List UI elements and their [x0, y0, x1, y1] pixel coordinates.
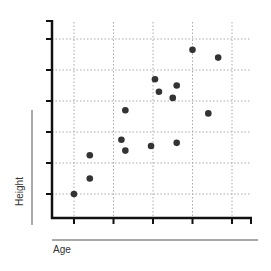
- scatter-chart: [0, 0, 271, 271]
- y-axis-label: Height: [14, 177, 25, 206]
- data-point: [152, 76, 159, 83]
- data-point: [71, 191, 78, 198]
- data-point: [156, 88, 163, 95]
- data-point: [173, 82, 180, 89]
- data-point: [215, 54, 222, 61]
- data-point: [122, 107, 129, 114]
- data-point: [173, 140, 180, 147]
- data-point: [148, 143, 155, 150]
- x-axis-label: Age: [53, 244, 71, 255]
- data-point: [189, 47, 196, 54]
- grid-lines: [52, 22, 250, 216]
- data-points: [71, 47, 222, 198]
- data-point: [205, 110, 212, 117]
- data-point: [87, 152, 94, 159]
- data-point: [169, 95, 176, 102]
- data-point: [118, 136, 125, 143]
- data-point: [122, 147, 129, 154]
- data-point: [87, 175, 94, 182]
